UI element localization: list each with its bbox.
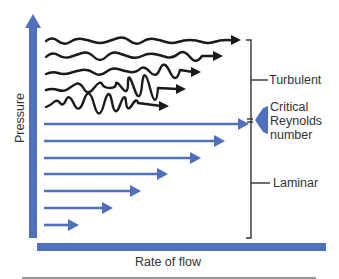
critical-label-line1: Critical (270, 100, 308, 114)
critical-label-line3: number (270, 128, 312, 142)
turbulent-arrow (46, 75, 178, 100)
turbulent-label: Turbulent (269, 73, 321, 87)
turbulent-arrows (46, 35, 241, 114)
turbulent-arrow (46, 65, 193, 78)
pressure-axis (25, 14, 41, 238)
x-axis-label: Rate of flow (135, 255, 201, 269)
laminar-arrows (44, 118, 249, 231)
turbulent-arrow (46, 93, 161, 113)
turbulent-arrow (46, 52, 215, 61)
laminar-label: Laminar (273, 176, 318, 190)
turbulent-arrow (46, 37, 236, 43)
flow-rate-axis (37, 243, 326, 251)
y-axis-label: Pressure (13, 95, 27, 143)
regime-bracket (246, 40, 270, 238)
axis-arrowhead-icon (25, 14, 41, 28)
critical-label-line2: Reynolds (270, 114, 322, 128)
critical-pointer-icon (255, 106, 268, 134)
